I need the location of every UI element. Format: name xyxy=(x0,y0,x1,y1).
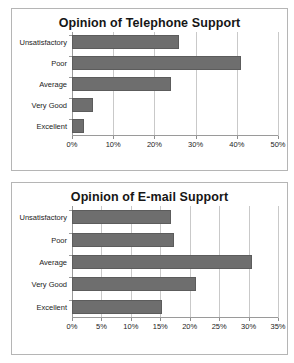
x-tick-label: 35% xyxy=(270,322,285,331)
category-tick xyxy=(69,300,72,301)
x-tick-mark xyxy=(113,136,114,139)
x-tick-label: 10% xyxy=(123,322,138,331)
x-tick-mark xyxy=(190,318,191,321)
x-axis-ticks-telephone: 0%10%20%30%40%50% xyxy=(72,136,278,150)
x-tick-label: 5% xyxy=(96,322,107,331)
category-label: Very Good xyxy=(32,280,67,289)
x-tick-label: 30% xyxy=(188,140,203,149)
bar-row: Poor xyxy=(72,56,278,70)
category-tick xyxy=(69,35,72,36)
bar-rows: UnsatisfactoryPoorAverageVery GoodExcell… xyxy=(72,32,278,136)
x-tick-label: 30% xyxy=(241,322,256,331)
category-tick xyxy=(69,277,72,278)
x-tick-mark xyxy=(72,318,73,321)
bar xyxy=(72,77,171,91)
plot-area-telephone: UnsatisfactoryPoorAverageVery GoodExcell… xyxy=(12,32,287,150)
bar-rows: UnsatisfactoryPoorAverageVery GoodExcell… xyxy=(72,206,278,318)
category-label: Excellent xyxy=(37,302,67,311)
x-tick-mark xyxy=(249,318,250,321)
bar xyxy=(72,119,84,133)
bar-row: Average xyxy=(72,77,278,91)
x-tick-label: 40% xyxy=(229,140,244,149)
bar-row: Poor xyxy=(72,233,278,247)
x-tick-label: 0% xyxy=(67,322,78,331)
category-label: Very Good xyxy=(32,100,67,109)
x-tick-mark xyxy=(154,136,155,139)
x-tick-mark xyxy=(72,136,73,139)
bar xyxy=(72,210,171,224)
gridline-35 xyxy=(278,206,279,318)
category-tick xyxy=(69,98,72,99)
x-tick-mark xyxy=(278,318,279,321)
bar xyxy=(72,277,196,291)
category-tick xyxy=(69,56,72,57)
chart-email-support: Opinion of E-mail Support Unsatisfactory… xyxy=(11,182,288,355)
x-tick-mark xyxy=(219,318,220,321)
x-tick-label: 20% xyxy=(147,140,162,149)
x-tick-mark xyxy=(237,136,238,139)
bar-row: Unsatisfactory xyxy=(72,35,278,49)
x-tick-mark xyxy=(278,136,279,139)
category-label: Excellent xyxy=(37,121,67,130)
x-tick-label: 0% xyxy=(67,140,78,149)
bar-row: Excellent xyxy=(72,119,278,133)
x-tick-mark xyxy=(160,318,161,321)
category-label: Unsatisfactory xyxy=(19,213,67,222)
x-tick-label: 20% xyxy=(182,322,197,331)
chart-page: Opinion of Telephone Support Unsatisfact… xyxy=(0,0,294,363)
bar xyxy=(72,98,93,112)
x-axis-ticks-email: 0%5%10%15%20%25%30%35% xyxy=(72,318,278,332)
category-label: Average xyxy=(39,257,67,266)
x-tick-label: 15% xyxy=(153,322,168,331)
chart-telephone-support: Opinion of Telephone Support Unsatisfact… xyxy=(11,8,288,171)
plot-email: UnsatisfactoryPoorAverageVery GoodExcell… xyxy=(72,206,278,318)
chart-title: Opinion of Telephone Support xyxy=(12,16,287,30)
category-tick xyxy=(69,210,72,211)
x-tick-mark xyxy=(196,136,197,139)
category-label: Unsatisfactory xyxy=(19,38,67,47)
bar xyxy=(72,35,179,49)
x-tick-label: 25% xyxy=(212,322,227,331)
bar-row: Unsatisfactory xyxy=(72,210,278,224)
plot-area-email: UnsatisfactoryPoorAverageVery GoodExcell… xyxy=(12,206,287,332)
bar xyxy=(72,300,162,314)
bar xyxy=(72,255,252,269)
category-label: Poor xyxy=(51,235,67,244)
chart-title: Opinion of E-mail Support xyxy=(12,190,287,204)
category-tick xyxy=(69,77,72,78)
plot-telephone: UnsatisfactoryPoorAverageVery GoodExcell… xyxy=(72,32,278,136)
x-tick-label: 50% xyxy=(270,140,285,149)
category-tick xyxy=(69,233,72,234)
x-tick-mark xyxy=(101,318,102,321)
gridline-50 xyxy=(278,32,279,136)
x-tick-label: 10% xyxy=(106,140,121,149)
category-tick xyxy=(69,255,72,256)
category-tick xyxy=(69,119,72,120)
bar xyxy=(72,233,174,247)
category-label: Average xyxy=(39,79,67,88)
x-tick-mark xyxy=(131,318,132,321)
category-label: Poor xyxy=(51,59,67,68)
bar-row: Very Good xyxy=(72,98,278,112)
bar-row: Very Good xyxy=(72,277,278,291)
bar xyxy=(72,56,241,70)
bar-row: Average xyxy=(72,255,278,269)
bar-row: Excellent xyxy=(72,300,278,314)
